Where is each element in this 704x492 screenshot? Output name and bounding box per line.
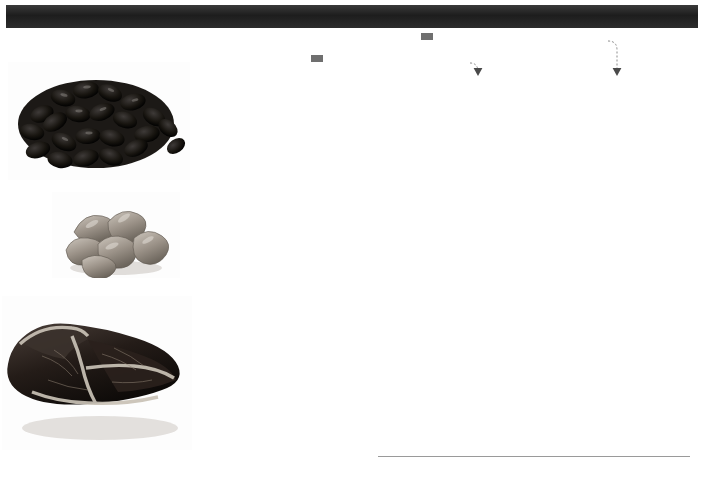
page-title-bar (6, 5, 698, 28)
rda-men-callout (311, 55, 323, 62)
t-bone-steak-photo (2, 296, 192, 450)
cashews-photo (52, 192, 180, 278)
x-axis-line (378, 456, 690, 457)
rda-women-callout (421, 33, 433, 40)
black-beans-photo (8, 62, 190, 180)
